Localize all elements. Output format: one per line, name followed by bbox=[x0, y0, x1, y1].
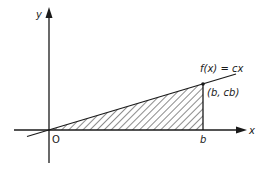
y-axis-label: y bbox=[35, 9, 43, 20]
point-label: (b, cb) bbox=[207, 87, 239, 98]
function-label: f(x) = cx bbox=[200, 63, 243, 74]
origin-label: O bbox=[52, 134, 60, 145]
diagram-canvas: y x O b f(x) = cx (b, cb) bbox=[0, 0, 263, 172]
point-b-cb bbox=[201, 82, 205, 86]
x-axis-arrow-icon bbox=[236, 127, 247, 134]
x-axis-label: x bbox=[248, 125, 255, 136]
y-axis-arrow-icon bbox=[46, 7, 53, 18]
b-label: b bbox=[200, 134, 206, 145]
